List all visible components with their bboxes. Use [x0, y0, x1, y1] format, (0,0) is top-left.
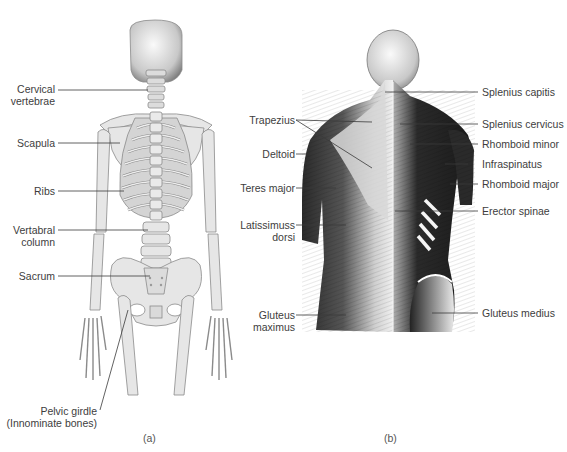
label-text: (Innominate bones)	[7, 417, 97, 429]
label-text: maximus	[253, 321, 295, 333]
label-teres-major: Teres major	[240, 182, 295, 194]
anatomy-figure: Cervicalvertebrae Scapula Ribs Vertabral…	[0, 0, 567, 452]
label-erector-spinae: Erector spinae	[482, 205, 550, 217]
muscle-figure	[302, 30, 475, 332]
label-latissimus-dorsi: Latissimussdorsi	[240, 219, 295, 243]
label-text: Gluteus	[259, 309, 295, 321]
label-splenius-cervicus: Splenius cervicus	[482, 118, 564, 130]
label-infraspinatus: Infraspinatus	[482, 158, 542, 170]
label-text: dorsi	[272, 231, 295, 243]
label-gluteus-maximus: Gluteusmaximus	[253, 309, 295, 333]
label-text: Pelvic girdle	[40, 405, 97, 417]
label-splenius-capitis: Splenius capitis	[482, 86, 555, 98]
label-text: column	[21, 236, 55, 248]
label-ribs: Ribs	[34, 185, 55, 197]
label-gluteus-medius: Gluteus medius	[482, 307, 555, 319]
caption-a: (a)	[143, 432, 156, 444]
label-deltoid: Deltoid	[262, 148, 295, 160]
label-text: Vertabral	[13, 224, 55, 236]
label-rhomboid-minor: Rhomboid minor	[482, 138, 559, 150]
label-scapula: Scapula	[17, 137, 55, 149]
label-vertebral-column: Vertabralcolumn	[13, 224, 55, 248]
label-text: vertebrae	[11, 95, 55, 107]
label-pelvic-girdle: Pelvic girdle(Innominate bones)	[7, 405, 97, 429]
skeleton	[80, 20, 232, 395]
label-rhomboid-major: Rhomboid major	[482, 178, 559, 190]
label-text: Latissimuss	[240, 219, 295, 231]
caption-b: (b)	[384, 432, 397, 444]
label-trapezius: Trapezius	[249, 114, 295, 126]
label-text: Cervical	[17, 83, 55, 95]
label-sacrum: Sacrum	[19, 270, 55, 282]
label-cervical-vertebrae: Cervicalvertebrae	[11, 83, 55, 107]
